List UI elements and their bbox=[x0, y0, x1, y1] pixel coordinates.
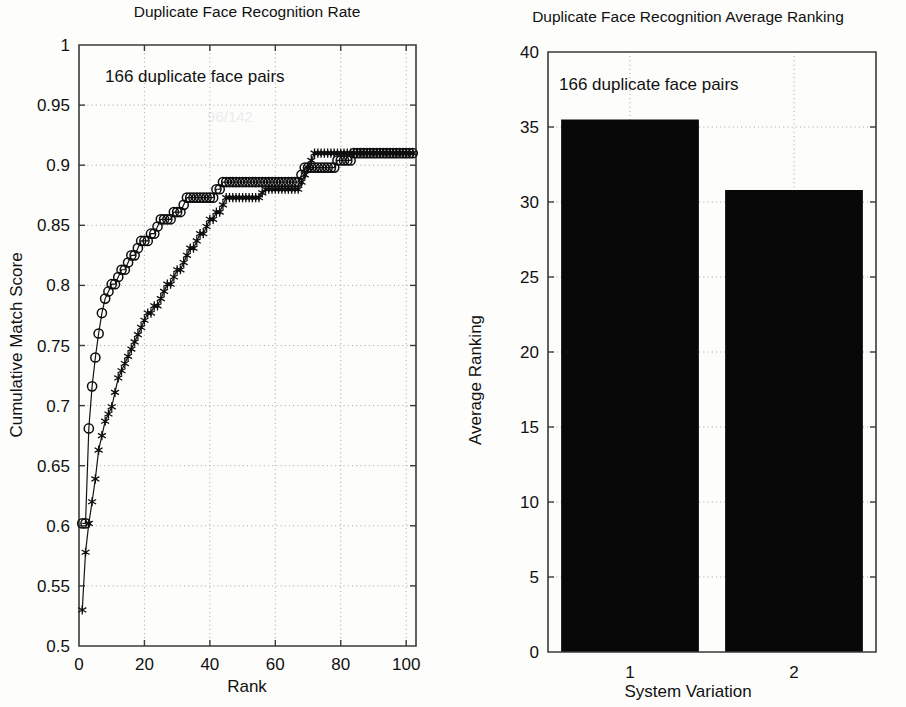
figure-root: Duplicate Face Recognition Rate 96/142 0… bbox=[0, 0, 906, 707]
grid-lines-left bbox=[79, 45, 416, 646]
chart-panel-avg-ranking: Duplicate Face Recognition Average Ranki… bbox=[453, 0, 906, 707]
marker-star bbox=[82, 548, 90, 557]
chart-panel-cms-curve: Duplicate Face Recognition Rate 96/142 0… bbox=[0, 0, 453, 707]
y-axis-title-left: Cumulative Match Score bbox=[7, 252, 26, 437]
y-tick-label: 0.9 bbox=[46, 156, 70, 175]
y-tick-label: 0.8 bbox=[46, 276, 70, 295]
bar-1 bbox=[561, 120, 699, 653]
chart-title-right: Duplicate Face Recognition Average Ranki… bbox=[532, 8, 844, 25]
x-tick-label: 80 bbox=[331, 655, 350, 674]
y-tick-label: 0.55 bbox=[37, 577, 70, 596]
cms-curve-svg: Duplicate Face Recognition Rate 96/142 0… bbox=[0, 0, 453, 707]
marker-star bbox=[95, 445, 103, 454]
x-tick-label: 60 bbox=[266, 655, 285, 674]
series-line-circle bbox=[82, 153, 412, 523]
chart-title-left: Duplicate Face Recognition Rate bbox=[134, 3, 361, 20]
x-axis-title-left: Rank bbox=[227, 677, 267, 696]
x-tick-label: 20 bbox=[135, 655, 154, 674]
y-tick-label: 0.85 bbox=[37, 216, 70, 235]
y-tick-label: 15 bbox=[520, 418, 539, 437]
y-axis-title-right: Average Ranking bbox=[466, 315, 485, 445]
annotation-right: 166 duplicate face pairs bbox=[559, 75, 739, 94]
bar-group bbox=[561, 120, 863, 653]
scan-artifact: 96/142 bbox=[207, 108, 253, 125]
x-tick-labels-left: 020406080100 bbox=[74, 655, 420, 674]
marker-star bbox=[88, 497, 96, 506]
marker-star bbox=[91, 474, 99, 483]
y-tick-label: 0.65 bbox=[37, 457, 70, 476]
x-axis-title-right: System Variation bbox=[624, 682, 751, 701]
y-tick-label: 25 bbox=[520, 268, 539, 287]
y-tick-label: 20 bbox=[520, 343, 539, 362]
y-tick-labels-left: 0.50.550.60.650.70.750.80.850.90.951 bbox=[37, 36, 70, 656]
y-tick-label: 30 bbox=[520, 193, 539, 212]
bar-2 bbox=[725, 190, 863, 652]
x-tick-label: 40 bbox=[200, 655, 219, 674]
marker-star bbox=[98, 431, 106, 440]
data-series-left bbox=[78, 149, 418, 615]
y-tick-label: 0.75 bbox=[37, 337, 70, 356]
y-tick-label: 35 bbox=[520, 118, 539, 137]
annotation-left: 166 duplicate face pairs bbox=[105, 67, 285, 86]
y-tick-label: 0.5 bbox=[46, 637, 70, 656]
x-tick-label: 100 bbox=[392, 655, 420, 674]
y-tick-label: 0.7 bbox=[46, 397, 70, 416]
marker-group-star bbox=[78, 149, 416, 615]
y-tick-labels-right: 0510152025303540 bbox=[520, 43, 539, 662]
avg-ranking-svg: Duplicate Face Recognition Average Ranki… bbox=[453, 0, 906, 707]
y-tick-label: 0.6 bbox=[46, 517, 70, 536]
y-tick-label: 10 bbox=[520, 493, 539, 512]
y-tick-label: 40 bbox=[520, 43, 539, 62]
marker-star bbox=[111, 388, 119, 397]
y-tick-label: 5 bbox=[530, 568, 539, 587]
x-tick-label: 0 bbox=[74, 655, 83, 674]
x-tick-label: 1 bbox=[625, 663, 634, 682]
x-tick-label: 2 bbox=[789, 663, 798, 682]
x-tick-labels-right: 12 bbox=[625, 663, 798, 682]
y-tick-label: 0 bbox=[530, 643, 539, 662]
y-tick-label: 0.95 bbox=[37, 96, 70, 115]
y-tick-label: 1 bbox=[61, 36, 70, 55]
series-line-star bbox=[82, 153, 412, 610]
marker-group-circle bbox=[78, 149, 418, 528]
